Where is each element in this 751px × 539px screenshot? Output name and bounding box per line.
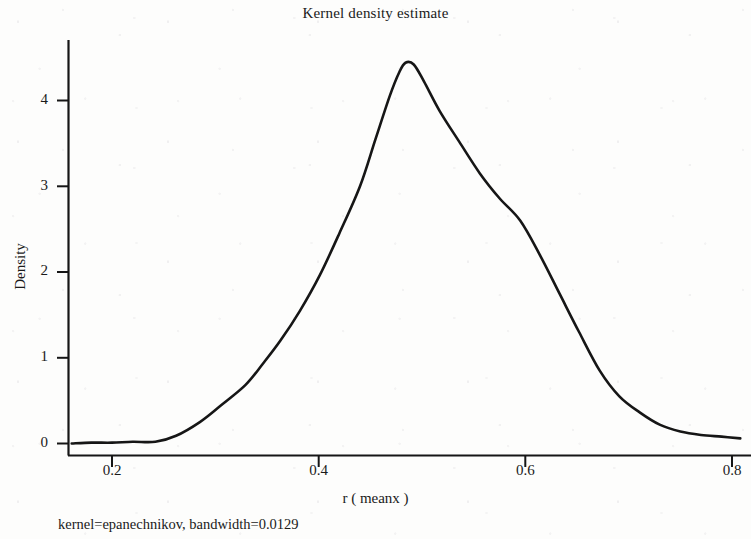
density-curve <box>72 62 741 444</box>
x-tick-label-0.2: 0.2 <box>89 462 135 479</box>
x-axis-title: r ( meanx ) <box>0 490 751 507</box>
x-tick-label-0.4: 0.4 <box>296 462 342 479</box>
y-axis-ticks <box>57 101 68 444</box>
chart-title: Kernel density estimate <box>0 5 751 22</box>
y-tick-label-1: 1 <box>26 348 48 365</box>
kernel-density-figure: Kernel density estimate 0 1 2 3 4 0.2 0.… <box>0 0 751 539</box>
y-tick-label-3: 3 <box>26 177 48 194</box>
x-axis-ticks <box>112 455 732 467</box>
y-tick-label-2: 2 <box>26 262 48 279</box>
x-tick-label-0.6: 0.6 <box>502 462 548 479</box>
kernel-bandwidth-note: kernel=epanechnikov, bandwidth=0.0129 <box>58 516 299 533</box>
y-axis-title: Density <box>12 222 29 312</box>
x-tick-label-0.8: 0.8 <box>709 462 751 479</box>
y-tick-label-0: 0 <box>26 434 48 451</box>
y-tick-label-4: 4 <box>26 91 48 108</box>
plot-area <box>0 0 751 539</box>
